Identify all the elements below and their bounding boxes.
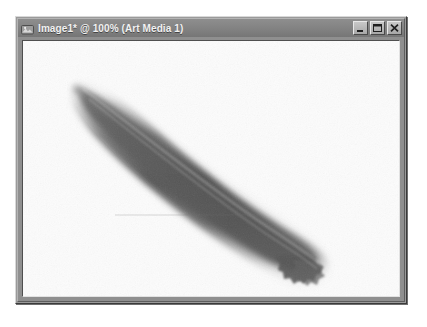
window-title-bar[interactable]: Image1* @ 100% (Art Media 1) bbox=[18, 19, 404, 37]
image-document-window[interactable]: Image1* @ 100% (Art Media 1) bbox=[15, 16, 407, 304]
window-controls bbox=[353, 21, 402, 35]
close-icon bbox=[388, 22, 401, 34]
brush-stroke-artwork bbox=[23, 41, 399, 296]
close-button[interactable] bbox=[387, 21, 402, 35]
screen-root: Image1* @ 100% (Art Media 1) bbox=[0, 0, 427, 327]
window-title-text: Image1* @ 100% (Art Media 1) bbox=[38, 22, 353, 35]
image-canvas[interactable] bbox=[23, 41, 399, 296]
minimize-button[interactable] bbox=[353, 21, 368, 35]
image-document-icon bbox=[21, 22, 34, 35]
canvas-frame bbox=[22, 40, 400, 297]
minimize-icon bbox=[354, 22, 367, 34]
maximize-button[interactable] bbox=[370, 21, 385, 35]
maximize-icon bbox=[371, 22, 384, 34]
